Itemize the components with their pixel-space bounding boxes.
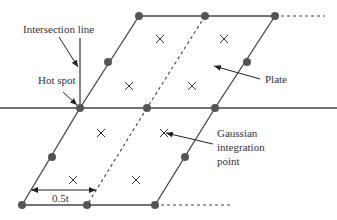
gauss-point-icon (97, 129, 105, 137)
hot-spot-label: Hot spot (38, 74, 76, 86)
dimension-label: 0.5t (52, 192, 69, 204)
intersection-line-arrow (59, 37, 78, 67)
node (211, 104, 219, 112)
node (83, 201, 91, 209)
plate-mesh-diagram: Intersection line Hot spot Plate Gaussia… (0, 0, 337, 220)
plate-arrow (214, 66, 260, 79)
gaussian-label-line1: Gaussian (217, 127, 258, 139)
upper-plate-elements (80, 16, 325, 108)
node (151, 201, 159, 209)
gauss-point-icon (156, 35, 164, 43)
gauss-point-icon (69, 176, 77, 184)
node (181, 153, 189, 161)
gauss-point-icon (188, 82, 196, 90)
gaussian-label-line2: integration (217, 141, 265, 153)
node (201, 12, 209, 20)
gaussian-label-line3: point (217, 155, 240, 167)
gauss-point-icon (220, 35, 228, 43)
hot-spot-node (76, 104, 84, 112)
intersection-line-label: Intersection line (23, 23, 94, 35)
gauss-point-icon (132, 176, 140, 184)
node (48, 153, 56, 161)
node (243, 58, 251, 66)
node (143, 104, 151, 112)
node (104, 58, 112, 66)
gauss-point-icon (125, 82, 133, 90)
hot-spot-arrow (63, 92, 77, 105)
mesh-nodes (18, 12, 279, 209)
node (135, 12, 143, 20)
node (271, 12, 279, 20)
node (18, 201, 26, 209)
plate-label: Plate (265, 73, 287, 85)
gaussian-arrow (166, 133, 213, 144)
